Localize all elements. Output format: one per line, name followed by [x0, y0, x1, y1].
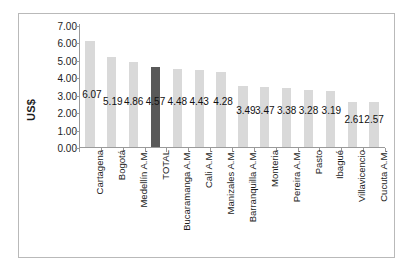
- y-axis-tick-mark: [75, 43, 79, 44]
- bar-value-label: 4.48: [168, 96, 187, 107]
- y-axis-tick-mark: [75, 113, 79, 114]
- x-axis-category-label: Bucaramanga A.M.: [181, 150, 192, 231]
- bar-value-label: 4.43: [189, 96, 208, 107]
- bar-value-label: 4.28: [213, 96, 232, 107]
- y-axis-tick-labels: 0.001.002.003.004.005.006.007.00: [44, 26, 77, 148]
- x-axis-category-label: Manizales A.M.: [225, 150, 236, 214]
- x-axis-category-label: Barranquilla A.M.: [247, 150, 258, 222]
- chart-figure: US$ 0.001.002.003.004.005.006.007.00 6.0…: [0, 0, 414, 273]
- bar-value-label: 2.57: [364, 114, 383, 125]
- y-axis-tick-mark: [75, 26, 79, 27]
- bar: [282, 88, 291, 147]
- x-axis-category-label: TOTAL: [160, 150, 171, 180]
- x-axis-category-label: Monteria: [269, 150, 280, 187]
- plot-area: 6.075.194.864.574.484.434.283.493.473.38…: [79, 26, 385, 148]
- x-axis-category-label: Cucuta A.M.: [378, 150, 389, 202]
- bar: [216, 72, 225, 147]
- bar: [304, 90, 313, 147]
- bar: [326, 91, 335, 147]
- y-axis-tick-mark: [75, 96, 79, 97]
- bar-value-label: 3.49: [236, 105, 255, 116]
- bar: [238, 86, 247, 147]
- bar-value-label: 6.07: [82, 89, 101, 100]
- y-axis-title: US$: [24, 84, 38, 136]
- x-axis-category-label: Ibagué: [334, 150, 345, 179]
- bar-value-label: 3.28: [299, 105, 318, 116]
- x-axis-category-label: Pereira A.M.: [291, 150, 302, 202]
- bar-value-label: 2.61: [344, 114, 363, 125]
- x-axis-category-label: Pasto: [313, 150, 324, 174]
- bar: [195, 70, 204, 147]
- y-axis-title-text: US$: [25, 99, 37, 121]
- bar-value-label: 5.19: [103, 96, 122, 107]
- y-axis-tick-mark: [75, 131, 79, 132]
- x-axis-category-label: Cartagena: [94, 150, 105, 194]
- bar-value-label: 3.38: [277, 105, 296, 116]
- bar-value-label: 3.47: [255, 105, 274, 116]
- bar-value-label: 4.86: [124, 96, 143, 107]
- bar-value-label: 4.57: [146, 96, 165, 107]
- x-axis-category-labels: CartagenaBogotáMedellín A.M.TOTALBucaram…: [79, 150, 385, 250]
- y-axis-line: [79, 24, 80, 148]
- x-axis-category-label: Cali A.M.: [203, 150, 214, 188]
- y-axis-tick-mark: [75, 61, 79, 62]
- x-axis-category-label: Medellín A.M.: [138, 150, 149, 208]
- bar: [173, 69, 182, 147]
- bar-value-label: 3.19: [322, 105, 341, 116]
- x-axis-category-label: Villavicencio: [356, 150, 367, 202]
- x-axis-category-label: Bogotá: [116, 150, 127, 180]
- y-axis-tick-mark: [75, 78, 79, 79]
- bar: [260, 87, 269, 147]
